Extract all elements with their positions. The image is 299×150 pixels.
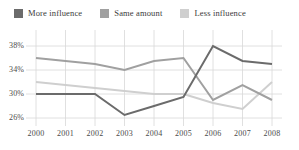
- x-axis: 200020012002200320042005200620072008: [26, 130, 282, 148]
- x-axis-tick-label: 2006: [205, 130, 222, 138]
- y-axis: 38%34%30%26%: [0, 0, 24, 150]
- legend-item-less-influence[interactable]: Less influence: [180, 9, 245, 18]
- x-axis-tick-label: 2002: [87, 130, 104, 138]
- gridlines: [26, 30, 282, 126]
- chart-legend: More influenceSame amountLess influence: [0, 0, 299, 26]
- x-axis-tick-label: 2007: [234, 130, 251, 138]
- legend-swatch-same-amount: [100, 9, 109, 18]
- legend-item-more-influence[interactable]: More influence: [14, 9, 82, 18]
- x-axis-tick-label: 2001: [57, 130, 74, 138]
- x-axis-tick-label: 2008: [264, 130, 281, 138]
- x-axis-tick-label: 2000: [28, 130, 45, 138]
- plot-area: [26, 30, 282, 126]
- y-axis-tick-label: 26%: [0, 114, 24, 122]
- y-axis-tick-label: 34%: [0, 66, 24, 74]
- legend-swatch-less-influence: [180, 9, 189, 18]
- x-axis-tick-label: 2003: [116, 130, 133, 138]
- legend-label: Same amount: [114, 9, 162, 18]
- x-axis-tick-label: 2005: [175, 130, 192, 138]
- y-axis-tick-label: 30%: [0, 90, 24, 98]
- legend-label: More influence: [28, 9, 82, 18]
- legend-label: Less influence: [194, 9, 245, 18]
- x-axis-tick-label: 2004: [146, 130, 163, 138]
- legend-item-same-amount[interactable]: Same amount: [100, 9, 162, 18]
- line-chart: More influenceSame amountLess influence …: [0, 0, 299, 150]
- y-axis-tick-label: 38%: [0, 42, 24, 50]
- plot-svg: [26, 30, 282, 126]
